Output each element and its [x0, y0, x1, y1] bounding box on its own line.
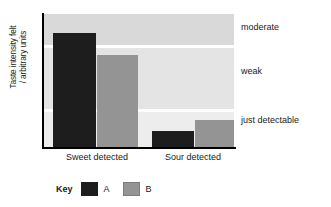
y-tick-label-moderate: moderate	[241, 22, 279, 32]
legend-swatch-a-icon	[81, 182, 98, 196]
x-category-label-sour: Sour detected	[150, 152, 236, 163]
x-axis-line	[42, 147, 236, 149]
legend-title: Key	[56, 184, 73, 194]
y-axis-title-line2: / arbitrary units	[19, 31, 29, 83]
y-tick-label-just-detectable: just detectable	[241, 115, 299, 125]
y-axis-title: Taste intensity felt / arbitrary units	[2, 0, 36, 117]
bar-chart: Taste intensity felt / arbitrary units m…	[0, 0, 331, 207]
bar-sweet-b	[97, 55, 138, 148]
legend-label-b: B	[146, 184, 152, 194]
y-tick-label-weak: weak	[241, 66, 262, 76]
x-category-label-sweet: Sweet detected	[52, 152, 142, 163]
plot-area	[44, 14, 234, 148]
legend-label-a: A	[104, 184, 110, 194]
legend-item-a: A	[81, 182, 110, 196]
y-axis-line	[42, 13, 44, 149]
legend: Key A B	[56, 180, 165, 198]
y-axis-title-line1: Taste intensity felt	[9, 25, 19, 88]
legend-swatch-b-icon	[123, 182, 140, 196]
bar-sweet-a	[53, 33, 96, 148]
bar-sour-a	[152, 131, 194, 148]
bar-sour-b	[195, 120, 234, 148]
legend-item-b: B	[123, 182, 152, 196]
